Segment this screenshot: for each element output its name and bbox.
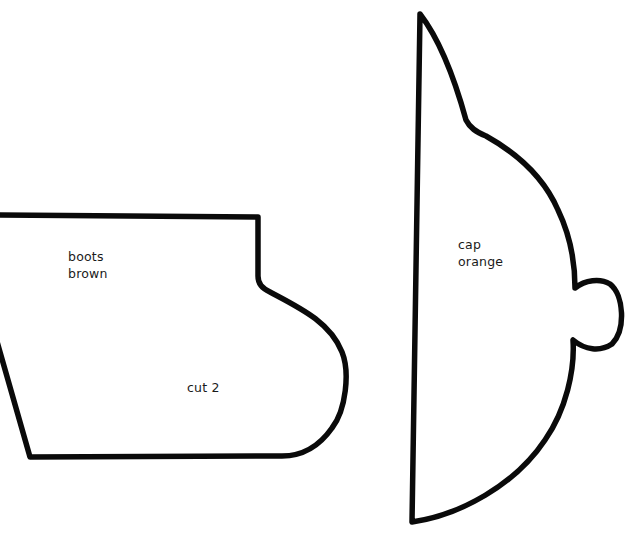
pattern-template-sheet: boots brown cut 2 cap orange [0, 0, 642, 534]
cap-piece-color: orange [458, 253, 503, 270]
boot-pattern-outline [0, 215, 346, 457]
cap-pattern-outline [412, 14, 622, 522]
cap-piece-name: cap [458, 236, 503, 253]
cap-label: cap orange [458, 236, 503, 270]
boot-cut-note: cut 2 [187, 379, 220, 396]
boot-cut-instruction: cut 2 [187, 379, 220, 396]
boot-piece-color: brown [68, 265, 108, 282]
boot-label: boots brown [68, 248, 108, 282]
boot-piece-name: boots [68, 248, 108, 265]
